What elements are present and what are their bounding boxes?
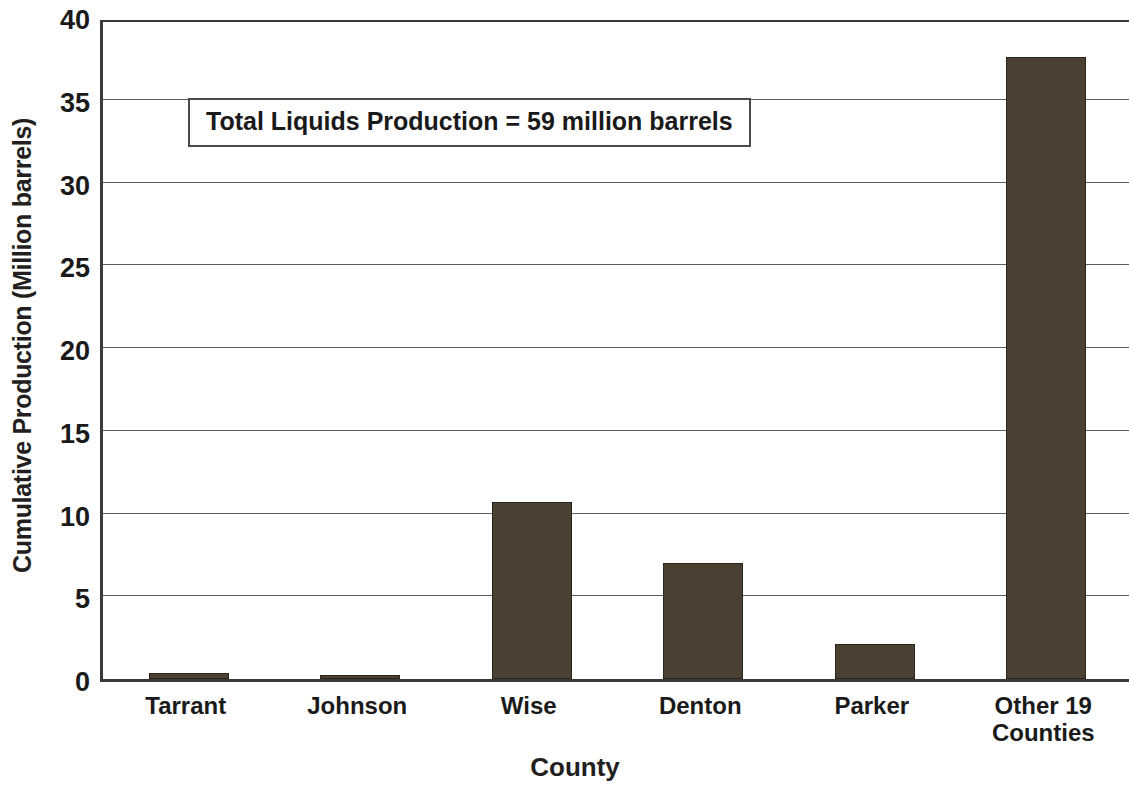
y-axis-tick-label: 40 (34, 7, 90, 34)
bar (663, 563, 743, 679)
y-axis-title-text: Cumulative Production (Million barrels) (8, 117, 37, 572)
y-axis-tick-label: 25 (34, 255, 90, 282)
x-axis-tick-label: Denton (659, 692, 742, 719)
bar (320, 675, 400, 679)
gridline (103, 347, 1129, 348)
bar-chart-figure: Cumulative Production (Million barrels) … (0, 0, 1129, 792)
x-axis-title: County (100, 752, 1050, 783)
x-axis-tick-label: Tarrant (145, 692, 226, 719)
gridline (103, 430, 1129, 431)
bar (835, 644, 915, 679)
gridline (103, 264, 1129, 265)
gridline (103, 595, 1129, 596)
total-production-annotation: Total Liquids Production = 59 million ba… (188, 98, 751, 147)
x-axis-tick-label: Johnson (307, 692, 407, 719)
y-axis-tick-label: 0 (34, 669, 90, 696)
y-axis-tick-label: 30 (34, 172, 90, 199)
gridline (103, 513, 1129, 514)
y-axis-tick-labels: 0510152025303540 (34, 0, 90, 692)
y-axis-tick-label: 35 (34, 89, 90, 116)
x-axis-tick-label: Other 19 Counties (992, 692, 1095, 747)
x-axis-tick-label: Parker (834, 692, 909, 719)
bar (149, 673, 229, 679)
y-axis-tick-label: 10 (34, 503, 90, 530)
gridline (103, 182, 1129, 183)
y-axis-tick-label: 20 (34, 338, 90, 365)
x-axis-tick-labels: TarrantJohnsonWiseDentonParkerOther 19 C… (100, 692, 1129, 754)
bar (492, 502, 572, 679)
x-axis-tick-label: Wise (501, 692, 557, 719)
y-axis-tick-label: 15 (34, 420, 90, 447)
bar (1006, 57, 1086, 679)
y-axis-tick-label: 5 (34, 586, 90, 613)
